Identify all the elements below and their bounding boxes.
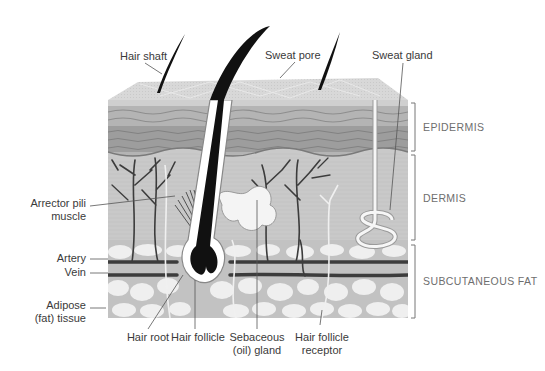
label-sebaceous-line2: (oil) gland	[225, 344, 289, 357]
label-adipose-line2: (fat) tissue	[8, 312, 86, 325]
label-hair-follicle: Hair follicle	[166, 331, 230, 344]
layer-label-epidermis: EPIDERMIS	[423, 121, 484, 133]
label-receptor-line2: receptor	[286, 344, 358, 357]
label-hair-shaft: Hair shaft	[120, 50, 167, 63]
label-sebaceous-gland: Sebaceous (oil) gland	[225, 331, 289, 357]
label-adipose-line1: Adipose	[8, 299, 86, 312]
layer-label-subcutaneous-fat: SUBCUTANEOUS FAT	[423, 275, 538, 287]
label-arrector-pili-line1: Arrector pili	[8, 197, 86, 210]
skin-diagram: Hair shaft Sweat pore Sweat gland Arrect…	[0, 0, 545, 371]
layer-brackets	[411, 103, 415, 318]
label-adipose: Adipose (fat) tissue	[8, 299, 86, 325]
label-artery: Artery	[8, 252, 86, 265]
label-receptor-line1: Hair follicle	[286, 331, 358, 344]
label-arrector-pili: Arrector pili muscle	[8, 197, 86, 223]
skin-surface	[108, 78, 408, 100]
label-sweat-gland: Sweat gland	[372, 49, 433, 62]
layer-label-dermis: DERMIS	[423, 192, 466, 204]
subcutaneous-layer	[107, 240, 412, 318]
label-vein: Vein	[8, 266, 86, 279]
label-arrector-pili-line2: muscle	[8, 210, 86, 223]
label-sweat-pore: Sweat pore	[265, 49, 321, 62]
epidermis-layer	[108, 100, 408, 160]
label-hair-follicle-receptor: Hair follicle receptor	[286, 331, 358, 357]
label-sebaceous-line1: Sebaceous	[225, 331, 289, 344]
